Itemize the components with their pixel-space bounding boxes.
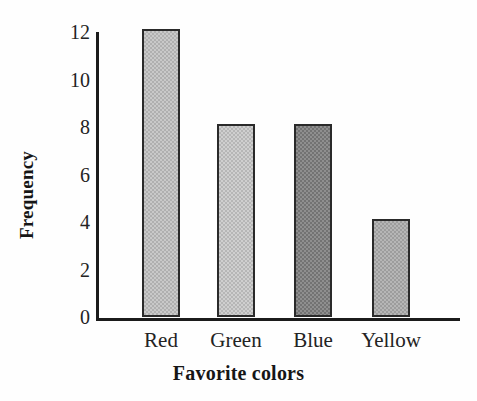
y-tick-label: 0 (56, 307, 90, 327)
x-axis-tick-labels: RedGreenBlueYellow (96, 327, 460, 355)
y-axis-line (96, 32, 99, 321)
y-tick-label: 4 (56, 212, 90, 232)
y-tick-label: 12 (56, 22, 90, 42)
y-axis-tick-labels: 121086420 (50, 32, 90, 320)
x-axis-title: Favorite colors (0, 362, 477, 385)
bar-blue (294, 124, 332, 317)
bar-red (142, 29, 180, 317)
y-tick-label: 6 (56, 165, 90, 185)
plot-area (96, 32, 460, 320)
y-tick-label: 8 (56, 117, 90, 137)
x-axis-line (96, 318, 460, 321)
y-axis-title-text: Frequency (16, 151, 38, 239)
y-axis-title: Frequency (14, 120, 40, 270)
bar-yellow (372, 219, 410, 317)
x-tick-label-yellow: Yellow (341, 327, 441, 353)
bar-chart-figure: Frequency 121086420 RedGreenBlueYellow F… (0, 0, 477, 401)
y-tick-label: 2 (56, 260, 90, 280)
bar-green (217, 124, 255, 317)
y-tick-label: 10 (56, 70, 90, 90)
